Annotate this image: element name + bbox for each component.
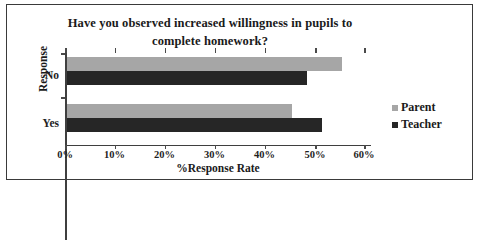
x-tick-50 xyxy=(315,48,317,53)
legend-swatch-parent-icon xyxy=(392,105,398,111)
x-tick-bottom-40 xyxy=(265,145,267,149)
legend-label-teacher: Teacher xyxy=(401,117,442,132)
chart-title-line-1: Have you observed increased willingness … xyxy=(25,15,395,33)
y-category-label-yes: Yes xyxy=(42,117,59,129)
plot-area: No Yes 0% 10% 20% 30% 40% 50% 60% xyxy=(65,53,371,146)
x-tick-label-40: 40% xyxy=(254,149,275,160)
x-axis-line xyxy=(65,145,371,147)
x-tick-bottom-0 xyxy=(65,145,67,149)
bar-yes-teacher xyxy=(67,118,322,132)
x-tick-bottom-60 xyxy=(364,145,366,149)
legend-item-parent: Parent xyxy=(392,99,442,116)
x-tick-bottom-30 xyxy=(215,145,217,149)
y-tick-mid xyxy=(61,97,65,99)
x-tick-30 xyxy=(215,48,217,53)
x-tick-label-0: 0% xyxy=(57,149,73,160)
legend-label-parent: Parent xyxy=(401,100,435,115)
legend-item-teacher: Teacher xyxy=(392,116,442,133)
x-axis-title: %Response Rate xyxy=(65,162,371,174)
x-tick-bottom-20 xyxy=(165,145,167,149)
x-tick-label-60: 60% xyxy=(354,149,375,160)
y-tick-top xyxy=(61,53,65,55)
x-tick-bottom-10 xyxy=(115,145,117,149)
x-tick-label-10: 10% xyxy=(104,149,125,160)
x-tick-0 xyxy=(65,48,67,53)
x-tick-label-30: 30% xyxy=(204,149,225,160)
chart-figure: Have you observed increased willingness … xyxy=(6,4,473,180)
bar-no-parent xyxy=(67,57,342,71)
y-category-label-no: No xyxy=(45,69,59,81)
chart-legend: Parent Teacher xyxy=(392,99,442,133)
x-tick-label-50: 50% xyxy=(305,149,326,160)
legend-swatch-teacher-icon xyxy=(392,122,398,128)
x-tick-60 xyxy=(364,48,366,53)
bar-yes-parent xyxy=(67,104,292,118)
x-tick-20 xyxy=(165,48,167,53)
x-tick-40 xyxy=(265,48,267,53)
bar-no-teacher xyxy=(67,71,307,85)
chart-title: Have you observed increased willingness … xyxy=(25,15,395,51)
x-tick-bottom-50 xyxy=(315,145,317,149)
x-tick-10 xyxy=(115,48,117,53)
x-tick-label-20: 20% xyxy=(154,149,175,160)
chart-title-line-2: complete homework? xyxy=(25,33,395,51)
